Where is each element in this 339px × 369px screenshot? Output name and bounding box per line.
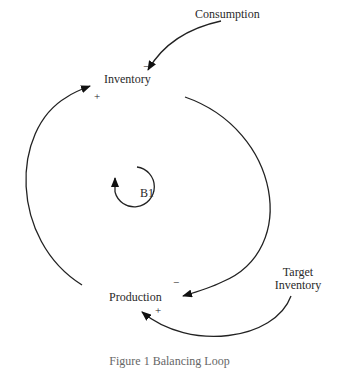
sign-inventory-production: − [173,276,179,288]
link-production-inventory [26,97,82,285]
figure-caption: Figure 1 Balancing Loop [0,354,339,369]
link-target-production [142,296,291,336]
link-inventory-production [185,97,270,282]
sign-production-inventory: + [94,90,100,102]
sign-target-production: + [155,304,161,316]
node-production: Production [109,291,162,304]
sign-consumption-inventory: − [143,60,149,72]
node-consumption: Consumption [195,8,260,21]
loop-label: B1 [140,187,154,200]
node-inventory: Inventory [104,73,151,86]
node-target-inventory: Target Inventory [268,266,328,292]
link-consumption-inventory [148,21,221,70]
